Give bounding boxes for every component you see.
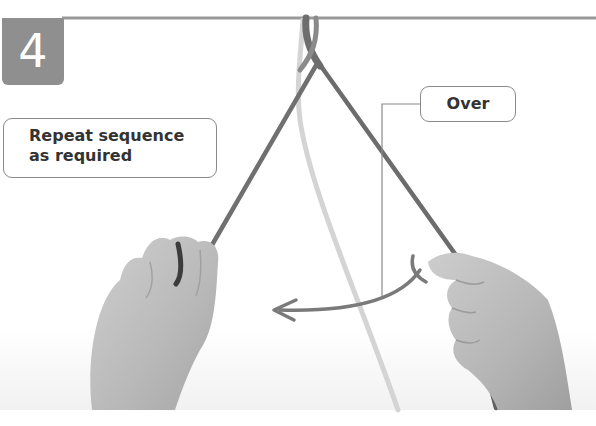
step-number-badge: 4	[2, 18, 64, 85]
repeat-label-line-1: Repeat sequence	[29, 126, 216, 146]
dark-rope-left	[212, 62, 318, 245]
knot-step-illustration: 4 Repeat sequence as required Over	[0, 0, 596, 426]
over-label: Over	[420, 86, 516, 122]
repeat-sequence-label: Repeat sequence as required	[3, 118, 217, 178]
illustration-scene	[0, 0, 596, 426]
repeat-label-line-2: as required	[29, 146, 216, 166]
